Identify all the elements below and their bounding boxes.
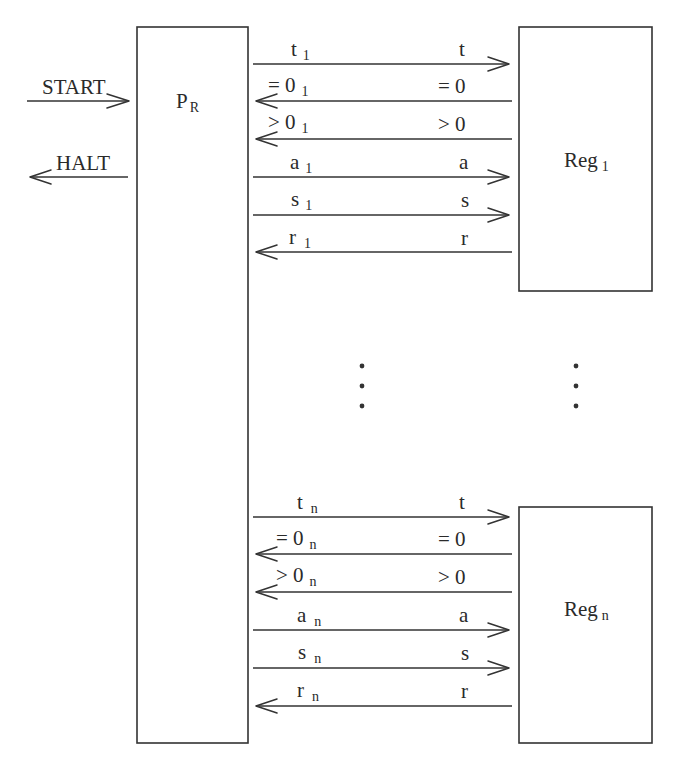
signal-left-label: > 01 [268, 110, 309, 136]
signal-right-label: = 0 [438, 74, 466, 98]
signal-left-label: sn [298, 640, 321, 666]
signal-right-label: = 0 [438, 527, 466, 551]
signal-left-label: rn [297, 678, 319, 704]
signal-left-label: > 0n [276, 563, 317, 589]
signal-r-n: rn r [256, 678, 512, 713]
signal-right-label: r [461, 226, 468, 250]
register-1-signals: t1 t = 01 = 0 > 01 > 0 a1 a s1 [253, 37, 512, 259]
signal-left-label: = 01 [268, 73, 309, 99]
register-n-block: Regn [519, 507, 652, 743]
signal-left-label: r1 [289, 225, 311, 251]
signal-right-label: a [459, 603, 469, 627]
signal-left-label: a1 [290, 150, 312, 176]
controller-block: PR [137, 27, 248, 743]
signal-right-label: s [461, 188, 469, 212]
signal-right-label: > 0 [438, 112, 466, 136]
signal-right-label: s [461, 641, 469, 665]
signal-eq0-n: = 0n = 0 [256, 526, 512, 561]
signal-s-1: s1 s [253, 187, 509, 222]
register-machine-diagram: PR START HALT Reg1 t1 t = 01 [0, 0, 673, 764]
register-n-signals: tn t = 0n = 0 > 0n > 0 an a sn [253, 490, 512, 713]
signal-r-1: r1 r [256, 225, 512, 259]
register-n-label: Regn [564, 597, 609, 623]
signal-left-label: = 0n [276, 526, 317, 552]
signal-t-1: t1 t [253, 37, 509, 71]
controller-box [137, 27, 248, 743]
signal-right-label: r [461, 679, 468, 703]
signal-right-label: a [459, 150, 469, 174]
signal-gt0-1: > 01 > 0 [256, 110, 512, 146]
signal-a-1: a1 a [253, 150, 509, 184]
ellipsis-signals [360, 364, 365, 409]
signal-left-label: tn [297, 490, 318, 516]
register-1-label: Reg1 [564, 148, 609, 174]
start-label: START [42, 75, 106, 99]
signal-right-label: > 0 [438, 565, 466, 589]
signal-left-label: an [297, 603, 321, 629]
signal-right-label: t [459, 490, 465, 514]
halt-label: HALT [56, 151, 110, 175]
signal-t-n: tn t [253, 490, 509, 524]
ellipsis-registers [574, 364, 579, 409]
signal-left-label: s1 [291, 187, 312, 213]
register-1-block: Reg1 [519, 27, 652, 291]
signal-right-label: t [459, 37, 465, 61]
signal-gt0-n: > 0n > 0 [256, 563, 512, 599]
controller-label: PR [176, 89, 200, 115]
signal-s-n: sn s [253, 640, 509, 675]
halt-signal: HALT [30, 151, 128, 184]
register-n-box [519, 507, 652, 743]
signal-eq0-1: = 01 = 0 [256, 73, 512, 108]
start-signal: START [27, 75, 129, 108]
signal-a-n: an a [253, 603, 509, 637]
signal-left-label: t1 [291, 37, 310, 63]
